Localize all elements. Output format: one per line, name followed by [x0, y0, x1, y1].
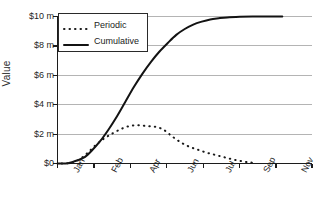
- legend-swatch-dotted-icon: [63, 20, 89, 30]
- series-line-periodic: [62, 125, 257, 163]
- y-axis-ticks: [53, 17, 57, 164]
- chart-container: Value $10 m $8 m $6 m $4 m $2 m $0 Jan F…: [0, 0, 331, 202]
- legend-item-cumulative: Cumulative: [63, 33, 139, 49]
- plot-area: [0, 0, 331, 202]
- chart-legend: Periodic Cumulative: [58, 13, 148, 52]
- legend-item-periodic: Periodic: [63, 17, 127, 33]
- legend-label-periodic: Periodic: [94, 20, 127, 30]
- legend-label-cumulative: Cumulative: [94, 36, 139, 46]
- legend-swatch-solid-icon: [63, 36, 89, 46]
